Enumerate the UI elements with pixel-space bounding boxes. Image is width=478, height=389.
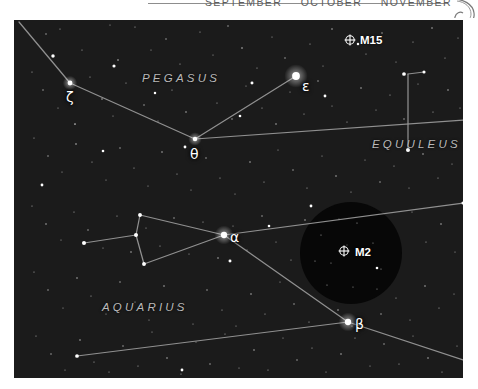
background-star [161,151,162,152]
background-star [185,111,186,112]
background-star [190,189,191,190]
background-star [47,289,48,290]
background-star [309,43,310,44]
background-star [306,187,307,188]
background-star [263,181,264,182]
background-star [311,347,312,348]
field-star [134,233,138,237]
background-star [87,229,88,230]
background-star [151,331,152,332]
field-star [142,262,146,266]
background-star [102,247,103,248]
background-star [75,143,77,145]
background-star [50,353,51,354]
finder-field-circle [300,202,402,304]
epsilon-pegasi[interactable] [292,72,300,80]
background-star [292,169,293,170]
background-star [326,284,327,285]
theta-pegasi[interactable] [193,137,198,142]
background-star [290,259,291,260]
background-star [372,242,373,243]
background-star [408,187,409,188]
background-star [35,335,36,336]
background-star [188,253,189,254]
background-star [346,121,347,122]
field-star [324,95,327,98]
background-star [93,361,94,362]
field-star [184,146,187,149]
background-star [130,251,131,252]
field-star [357,43,360,46]
background-star [364,159,365,160]
background-star [148,319,149,320]
background-star [411,211,412,212]
background-star [457,37,458,38]
background-star [219,177,220,178]
background-star [133,167,134,168]
background-star [403,118,404,119]
background-star [165,38,166,39]
background-star [147,185,148,186]
background-star [180,373,181,374]
background-star [441,371,442,372]
field-star [229,260,232,263]
background-star [205,157,206,158]
sky-chart[interactable]: PEGASUSEQUULEUSAQUARIUSζθεαβM15M2 [14,20,463,378]
background-star [79,339,80,340]
background-star [321,155,322,156]
background-star [271,36,272,37]
month-label-october: OCTOBER [301,0,363,8]
background-star [261,107,262,108]
background-star [212,54,213,55]
background-star [221,309,222,310]
zeta-pegasi[interactable] [68,81,73,86]
header-band: SEPTEMBER OCTOBER NOVEMBER [0,0,478,18]
background-star [101,98,102,99]
background-star [232,225,233,226]
background-star [89,76,90,77]
background-star [369,365,370,366]
background-star [282,337,283,338]
background-star [112,115,113,116]
background-star [256,67,257,68]
background-star [150,49,151,50]
background-star [137,365,138,366]
background-star [352,286,353,287]
background-star [62,307,63,308]
background-star [431,27,432,28]
background-star [33,271,34,272]
background-star [293,303,294,304]
background-star [267,369,268,370]
background-star [264,313,265,314]
field-star [154,92,157,95]
alpha-aquarii[interactable] [221,232,227,238]
background-star [105,179,106,180]
background-star [337,309,338,310]
beta-aquarii[interactable] [345,319,351,325]
background-star [73,211,74,212]
background-star [284,57,285,58]
background-star [438,307,439,308]
background-star [314,260,315,261]
background-star [325,371,326,372]
background-star [375,109,376,110]
background-star [330,262,331,263]
background-star [331,28,332,29]
background-star [379,181,380,182]
background-star [238,367,239,368]
background-star [59,28,60,29]
page-curl-ornament [449,0,477,18]
background-star [143,104,144,105]
background-star [412,41,413,42]
background-star [145,227,146,228]
background-star [90,295,91,296]
background-star [249,161,250,162]
background-star [60,239,61,240]
constellation-label-equuleus: EQUULEUS [372,138,461,150]
background-star [304,219,305,220]
background-star [206,289,207,290]
background-star [45,223,46,224]
month-row: SEPTEMBER OCTOBER NOVEMBER [0,0,478,10]
background-star [241,47,243,49]
background-star [179,63,180,64]
